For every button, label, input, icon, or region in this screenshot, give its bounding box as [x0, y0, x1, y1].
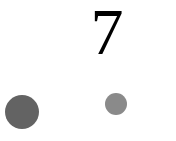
large-dot	[5, 95, 39, 129]
digit-seven: 7	[82, 0, 132, 64]
small-dot	[105, 93, 127, 115]
